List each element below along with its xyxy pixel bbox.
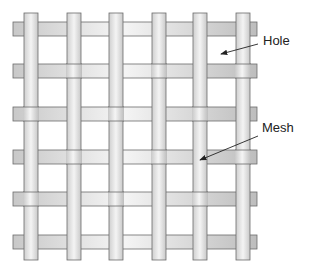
horizontal-wire <box>13 107 257 121</box>
wire-crossing-horizontal-over <box>235 150 251 164</box>
wire-crossing-horizontal-over <box>108 107 124 121</box>
horizontal-wire <box>13 235 257 249</box>
wire-crossing-horizontal-over <box>192 107 208 121</box>
wire-crossing-horizontal-over <box>192 192 208 206</box>
vertical-wire <box>24 13 38 260</box>
hole-label: Hole <box>263 33 290 48</box>
wire-crossing-horizontal-over <box>151 150 167 164</box>
wire-crossing-horizontal-over <box>151 64 167 78</box>
horizontal-wire <box>13 22 257 36</box>
vertical-wire <box>152 13 166 260</box>
wire-crossing-horizontal-over <box>23 192 39 206</box>
horizontal-wire <box>13 64 257 78</box>
wire-crossing-horizontal-over <box>108 192 124 206</box>
woven-mesh-diagram: Hole Mesh <box>0 0 310 273</box>
wire-crossing-horizontal-over <box>66 150 82 164</box>
vertical-wire <box>109 13 123 260</box>
horizontal-wire <box>13 150 257 164</box>
horizontal-wire <box>13 192 257 206</box>
vertical-wire <box>236 13 250 260</box>
wire-crossing-horizontal-over <box>66 64 82 78</box>
mesh-label: Mesh <box>262 120 294 135</box>
vertical-wire <box>193 13 207 260</box>
wire-crossing-horizontal-over <box>235 64 251 78</box>
mesh-strips-under <box>13 13 257 260</box>
vertical-wire <box>67 13 81 260</box>
wire-crossing-horizontal-over <box>23 107 39 121</box>
mesh-strips-over <box>23 64 251 206</box>
